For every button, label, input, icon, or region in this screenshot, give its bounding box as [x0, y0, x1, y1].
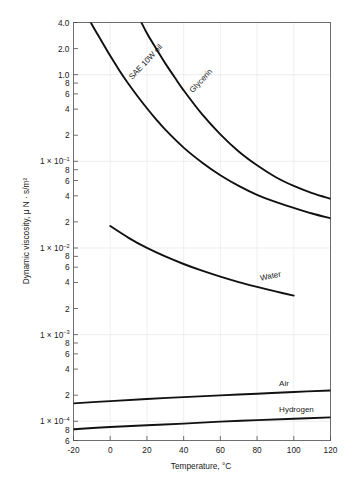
viscosity-chart: 4.02.01.086421 × 10–186421 × 10–286421 ×… — [0, 0, 348, 483]
y-tick-label: 4 — [65, 277, 70, 287]
y-tick-label: 4 — [65, 104, 70, 114]
x-tick-label: 20 — [142, 445, 152, 455]
y-axis-title: Dynamic viscosity, μ N · s/m² — [21, 178, 31, 285]
y-tick-label: 2 — [65, 217, 70, 227]
curve-label-hydrogen: Hydrogen — [279, 405, 314, 414]
x-tick-label: 60 — [216, 445, 226, 455]
y-tick-label: 4 — [65, 364, 70, 374]
x-tick-label: -20 — [68, 445, 80, 455]
curve-label-air: Air — [279, 379, 289, 388]
x-tick-label: 0 — [108, 445, 113, 455]
x-tick-label: 120 — [324, 445, 338, 455]
y-tick-label: 6 — [65, 262, 70, 272]
x-tick-label: 80 — [252, 445, 262, 455]
y-tick-label: 8 — [65, 165, 70, 175]
y-tick-label: 6 — [65, 349, 70, 359]
y-tick-label: 6 — [65, 176, 70, 186]
y-tick-label: 2 — [65, 304, 70, 314]
x-tick-label: 100 — [287, 445, 301, 455]
y-tick-label: 2.0 — [58, 44, 70, 54]
y-tick-label: 4 — [65, 191, 70, 201]
y-tick-label: 8 — [65, 425, 70, 435]
y-tick-label: 8 — [65, 338, 70, 348]
y-tick-label: 6 — [65, 89, 70, 99]
y-tick-label: 8 — [65, 251, 70, 261]
x-axis-title: Temperature, °C — [171, 461, 232, 471]
y-tick-label: 4.0 — [58, 18, 70, 28]
x-tick-label: 40 — [179, 445, 189, 455]
y-tick-label: 2 — [65, 130, 70, 140]
chart-canvas: 4.02.01.086421 × 10–186421 × 10–286421 ×… — [0, 0, 348, 483]
y-tick-label: 8 — [65, 78, 70, 88]
y-tick-label: 2 — [65, 390, 70, 400]
